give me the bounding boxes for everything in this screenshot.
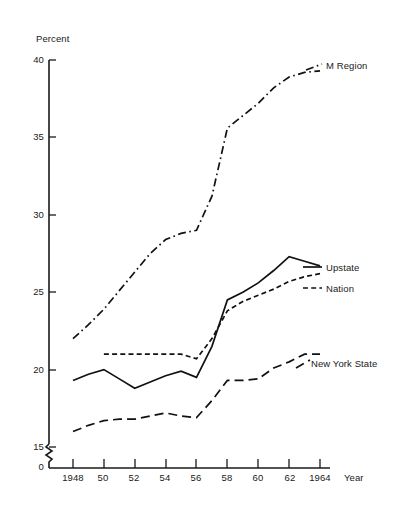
series-line-new-york-state [73,354,320,431]
y-axis [46,60,56,468]
data-series-group [73,71,320,432]
leader-new-york-state [296,360,310,368]
series-line-upstate [73,257,320,389]
x-axis [49,459,330,468]
leader-m-region [306,64,322,70]
series-label-leaders [296,64,322,368]
chart-plot-area [0,0,409,511]
chart-container: Percent 40 35 30 25 20 15 0 1948 50 52 5… [0,0,409,511]
series-line-m-region [73,71,320,339]
